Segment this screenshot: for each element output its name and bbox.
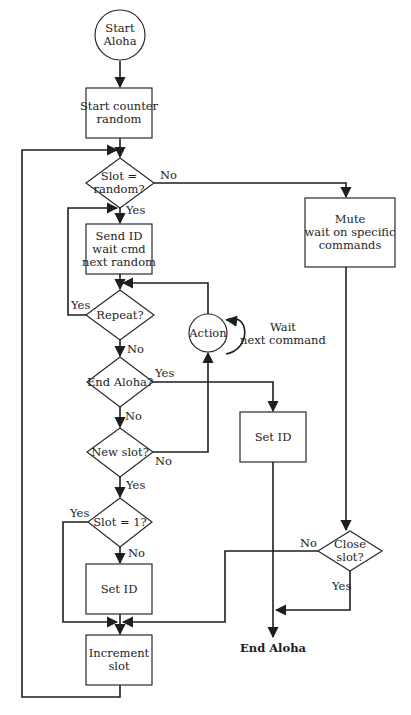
start-label: Start Aloha [103,22,136,48]
edge-slot-random-no [154,183,346,197]
edge-action-self-arrow [227,320,236,321]
edge-label-new-slot-yes: Yes [126,479,145,492]
wait-line2: next command [240,334,326,347]
close-slot-label: Close slot? [334,538,366,564]
edge-label-close-yes: Yes [332,580,351,593]
send-id-label: Send ID wait cmd next random [82,230,156,269]
edge-label-new-slot-no: No [155,455,172,468]
mute-label: Mute wait on specific commands [305,213,396,252]
edge-label-repeat-no: No [127,343,144,356]
action-label: Action [189,327,226,340]
end-aloha-terminal: End Aloha [240,642,306,655]
slot-eq-1-label: Slot = 1? [93,516,147,529]
edge-label-slot1-yes: Yes [70,507,89,520]
set-id-right-label: Set ID [255,431,292,444]
increment-line2: slot [89,660,149,673]
slot-random-line2: random? [93,183,144,196]
send-id-line3: next random [82,256,156,269]
wait-next-command-label: Wait next command [240,321,326,347]
new-slot-label: New slot? [91,446,149,459]
edge-label-end-aloha-yes: Yes [155,367,174,380]
start-counter-line2: random [80,113,158,126]
mute-line3: commands [305,239,396,252]
edge-label-close-no: No [300,537,317,550]
increment-label: Increment slot [89,647,149,673]
set-id-left-label: Set ID [101,583,138,596]
edge-end-aloha-yes [153,382,273,411]
flowchart-graphics [0,0,411,715]
edge-label-slot-random-yes: Yes [126,204,145,217]
start-counter-label: Start counter random [80,100,158,126]
slot-random-label: Slot = random? [93,170,144,196]
start-label-line2: Aloha [103,35,136,48]
edge-label-slot-random-no: No [160,169,177,182]
end-aloha-question-label: End Aloha? [87,376,153,389]
flowchart-canvas: Start Aloha Start counter random Slot = … [0,0,411,715]
edge-label-repeat-yes: Yes [71,299,90,312]
edge-label-slot1-no: No [128,547,145,560]
edge-label-end-aloha-no: No [125,410,142,423]
close-slot-line2: slot? [334,551,366,564]
repeat-label: Repeat? [96,309,143,322]
